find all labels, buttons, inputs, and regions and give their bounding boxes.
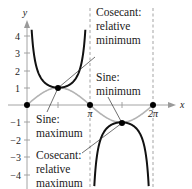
svg-text:Cosecant:: Cosecant: — [96, 6, 141, 18]
svg-text:minimum: minimum — [96, 85, 141, 97]
x-axis-label: x — [179, 99, 185, 110]
y-tick-4: 4 — [15, 31, 20, 42]
cosecant-curve-lower — [94, 122, 148, 186]
svg-text:Cosecant:: Cosecant: — [36, 149, 81, 161]
annotation-sine-minimum: Sine: minimum — [95, 52, 145, 97]
svg-text:maximum: maximum — [36, 177, 83, 189]
x-tick-2pi: 2π — [148, 108, 159, 119]
y-axis-arrow-icon — [24, 20, 30, 28]
cosecant-curve-upper — [32, 30, 86, 88]
y-tick-m4: −4 — [10, 170, 21, 181]
annotation-cosecant-relative-maximum: Cosecant: relative maximum — [36, 149, 83, 189]
y-tick-m2: −2 — [10, 135, 21, 146]
annotation-cosecant-relative-minimum: Cosecant: relative minimum — [95, 5, 145, 49]
y-tick-1: 1 — [15, 83, 20, 94]
svg-text:relative: relative — [36, 163, 70, 175]
y-tick-m3: −3 — [10, 152, 21, 163]
svg-text:Sine:: Sine: — [96, 71, 120, 83]
leader-sine-max — [47, 88, 58, 112]
svg-text:maximum: maximum — [36, 127, 83, 139]
svg-text:Sine:: Sine: — [36, 113, 60, 125]
x-tick-pi: π — [87, 108, 93, 119]
x-axis-arrow-icon — [168, 102, 176, 108]
annotation-sine-maximum: Sine: maximum — [36, 113, 83, 139]
y-tick-2: 2 — [15, 66, 20, 77]
svg-text:relative: relative — [96, 20, 130, 32]
sine-cosecant-chart: 4 3 2 1 −1 −2 −3 −4 y x π 2π Cosecant: r… — [0, 0, 192, 189]
y-tick-3: 3 — [15, 48, 20, 59]
y-axis-label: y — [22, 7, 28, 18]
leader-csc-max — [82, 123, 122, 153]
y-tick-m1: −1 — [10, 117, 21, 128]
svg-text:minimum: minimum — [96, 34, 141, 46]
leader-csc-min — [58, 57, 95, 88]
